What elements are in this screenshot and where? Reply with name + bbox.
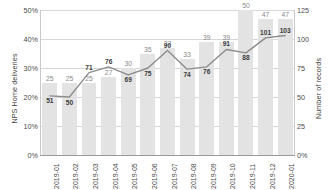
- nps-home-deliveries-chart: NPS Home deliveries Number of records 0%…: [0, 0, 329, 190]
- x-axis-tick-label: 2019-10: [229, 163, 236, 189]
- x-axis-tick-label: 2019-12: [269, 163, 276, 189]
- line-value-label: 51: [46, 97, 53, 104]
- x-axis-tick-label: 2019-03: [92, 163, 99, 189]
- y-axis-right-tick: 75: [297, 64, 305, 73]
- y-axis-right-tick: 25: [297, 122, 305, 131]
- y-axis-left-tick: 50%: [24, 6, 38, 15]
- y-axis-right-tick: 100: [297, 35, 309, 44]
- line-value-label: 76: [105, 58, 112, 65]
- y-axis-left-tick: 30%: [24, 64, 38, 73]
- line-value-label: 75: [144, 70, 151, 77]
- y-axis-left-tick: 40%: [24, 35, 38, 44]
- x-axis-tick-label: 2019-02: [72, 163, 79, 189]
- y-axis-right-ticks: 0%255075100125: [297, 0, 323, 160]
- line-value-label: 76: [203, 68, 210, 75]
- line-value-label: 74: [183, 71, 190, 78]
- x-axis-categories: 2019-012019-022019-032019-042019-052019-…: [40, 157, 295, 190]
- x-axis-tick-label: 2019-06: [151, 163, 158, 189]
- x-axis-tick-label: 2019-01: [53, 163, 60, 189]
- x-axis-tick-label: 2019-07: [171, 163, 178, 189]
- y-axis-left-ticks: 0%10%20%30%40%50%: [8, 0, 38, 160]
- y-axis-left-tick: 0%: [28, 151, 38, 160]
- x-axis-tick-label: 2019-09: [210, 163, 217, 189]
- line-series: [40, 10, 295, 155]
- line-value-label: 101: [260, 29, 271, 36]
- y-axis-left-tick: 20%: [24, 93, 38, 102]
- line-value-label: 69: [125, 76, 132, 83]
- x-axis-tick-label: 2019-04: [112, 163, 119, 189]
- line-value-label: 71: [85, 64, 92, 71]
- line-value-label: 103: [280, 27, 291, 34]
- x-axis-tick-label: 2019-05: [131, 163, 138, 189]
- y-axis-right-tick: 125: [297, 6, 309, 15]
- y-axis-right-tick: 0%: [297, 151, 307, 160]
- x-axis-tick-label: 2019-11: [249, 164, 256, 189]
- line-value-label: 50: [66, 99, 73, 106]
- line-value-label: 90: [164, 42, 171, 49]
- plot-area: 25252527303537333939504747 5150717669759…: [40, 10, 295, 155]
- x-axis-tick-label: 2020-01: [288, 163, 295, 189]
- y-axis-left-tick: 10%: [24, 122, 38, 131]
- y-axis-right-tick: 50: [297, 93, 305, 102]
- x-axis-tick-label: 2019-08: [190, 163, 197, 189]
- line-value-label: 91: [223, 40, 230, 47]
- line-value-label: 88: [242, 54, 249, 61]
- bar-value-label: 50: [236, 2, 256, 9]
